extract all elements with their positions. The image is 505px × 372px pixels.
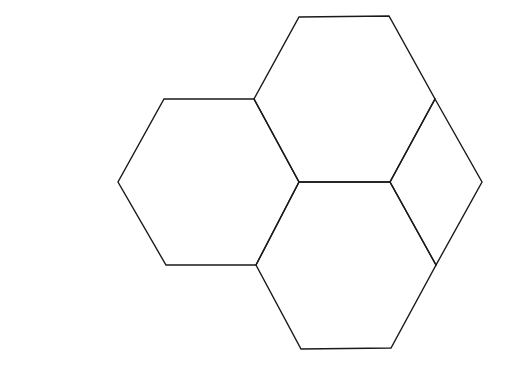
hexagon-tiling-figure	[0, 0, 505, 372]
rhombus-right	[390, 99, 482, 265]
hexagon-top	[254, 16, 435, 182]
hexagon-left	[118, 99, 299, 265]
diagram-canvas	[0, 0, 505, 372]
hexagon-bottom	[256, 182, 436, 349]
